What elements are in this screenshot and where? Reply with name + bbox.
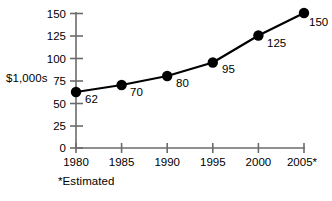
data-line <box>76 13 304 92</box>
data-label-1985: 70 <box>130 86 143 98</box>
x-tick-label-1985: 1985 <box>109 156 135 168</box>
data-point-2000[interactable] <box>253 30 263 40</box>
x-tick-label-2005: 2005* <box>287 156 318 168</box>
y-tick-label-0: 0 <box>60 142 66 154</box>
x-axis-tick-labels: 1980 1985 1990 1995 2000 2005* <box>63 156 317 168</box>
chart-footnote: *Estimated <box>58 176 115 188</box>
y-tick-label-25: 25 <box>53 120 66 132</box>
y-tick-label-150: 150 <box>47 8 66 20</box>
data-point-labels: 62 70 80 95 125 150 <box>85 16 328 105</box>
y-tick-label-50: 50 <box>53 98 66 110</box>
axis-lines <box>76 12 305 148</box>
x-tick-label-1990: 1990 <box>154 156 180 168</box>
y-tick-label-100: 100 <box>47 53 66 65</box>
y-axis-tick-labels: 150 125 100 75 50 25 0 <box>47 8 66 155</box>
data-point-1990[interactable] <box>162 71 172 81</box>
x-tick-label-2000: 2000 <box>246 156 272 168</box>
data-point-1980[interactable] <box>71 87 81 97</box>
y-tick-label-75: 75 <box>53 75 66 87</box>
x-tick-label-1980: 1980 <box>63 156 89 168</box>
chart-plot-area: 150 125 100 75 50 25 0 1980 1985 1990 19… <box>0 0 332 201</box>
data-label-1995: 95 <box>222 63 235 75</box>
data-markers <box>71 8 309 97</box>
data-label-1980: 62 <box>85 93 98 105</box>
data-label-2005: 150 <box>309 16 328 28</box>
data-point-1985[interactable] <box>116 80 126 90</box>
y-axis-title: $1,000s <box>6 73 48 85</box>
y-tick-label-125: 125 <box>47 30 66 42</box>
data-label-1990: 80 <box>176 77 189 89</box>
x-tick-label-1995: 1995 <box>200 156 226 168</box>
data-point-1995[interactable] <box>208 57 218 67</box>
data-label-2000: 125 <box>267 37 286 49</box>
line-chart: 150 125 100 75 50 25 0 1980 1985 1990 19… <box>0 0 332 201</box>
data-point-2005[interactable] <box>299 8 309 18</box>
